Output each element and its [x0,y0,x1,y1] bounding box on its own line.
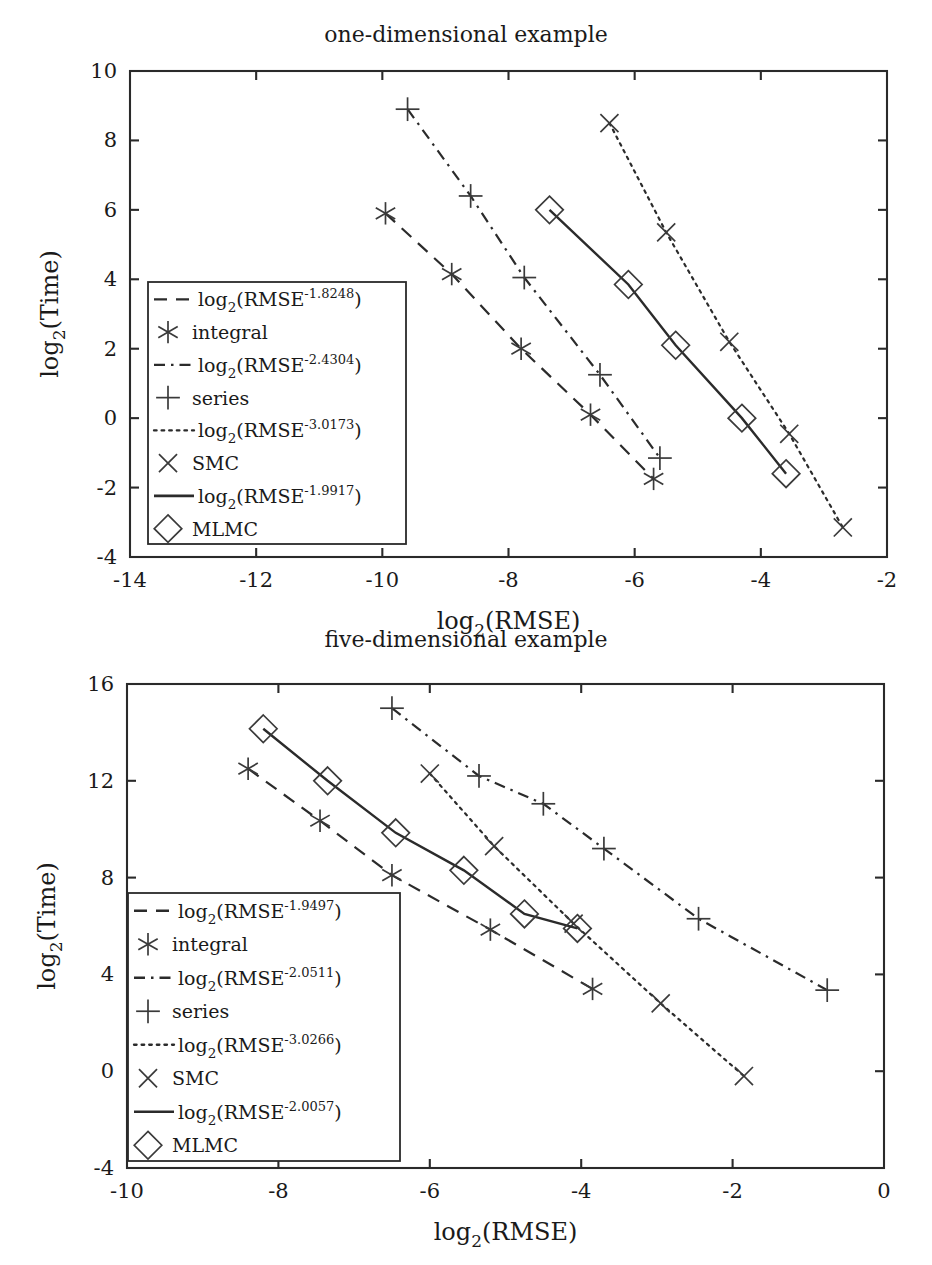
y-tick-label: 2 [104,337,117,361]
legend-label-SMC: SMC [192,452,239,474]
y-tick-label: 0 [101,1059,114,1083]
legend-label-SMC: SMC [172,1067,219,1089]
y-tick-label: 10 [90,59,117,83]
x-tick-label: -8 [498,568,518,592]
chart-title-five-dimensional: five-dimensional example [0,627,932,652]
y-axis-label: log2(Time) [36,250,69,378]
legend-label-integral: integral [172,933,248,955]
series-series [396,97,672,470]
x-tick-label: 0 [877,1179,890,1203]
x-tick-label: -2 [877,568,897,592]
legend-label-MLMC: MLMC [172,1134,238,1156]
x-tick-label: -2 [722,1179,742,1203]
x-tick-label: -12 [239,568,273,592]
x-tick-label: -14 [113,568,147,592]
svg-text:log2(Time): log2(Time) [33,862,66,990]
chart-title-one-dimensional: one-dimensional example [0,22,932,47]
y-tick-label: 4 [104,267,117,291]
chart-panel-one-dimensional: one-dimensional example -14-12-10-8-6-4-… [0,0,932,640]
series-line-integral [385,213,653,479]
legend-label-series: series [172,1000,229,1022]
legend-label-series: series [192,387,249,409]
chart-svg-five-dimensional: -10-8-6-4-20-40481216log2(RMSE)log2(Time… [0,615,932,1265]
y-axis-label: log2(Time) [33,862,66,990]
x-tick-label: -6 [420,1179,440,1203]
series-SMC [600,114,851,536]
series-line-MLMC [550,210,787,474]
legend-label-MLMC: MLMC [192,518,258,540]
marker-diamond [772,460,800,488]
svg-text:log2(RMSE): log2(RMSE) [434,1218,578,1251]
y-tick-label: -4 [97,545,117,569]
figure-page: one-dimensional example -14-12-10-8-6-4-… [0,0,932,1265]
series-series [380,696,839,1002]
y-tick-label: 16 [87,672,114,696]
x-tick-label: -6 [624,568,644,592]
series-line-series [408,109,660,458]
x-tick-label: -4 [751,568,771,592]
x-axis-label: log2(RMSE) [434,1218,578,1251]
legend-label-integral: integral [192,321,268,343]
chart-svg-one-dimensional: -14-12-10-8-6-4-2-4-20246810log2(RMSE)lo… [0,0,932,640]
y-tick-label: 6 [104,198,117,222]
y-tick-label: 8 [104,128,117,152]
x-tick-label: -4 [571,1179,591,1203]
chart-panel-five-dimensional: five-dimensional example -10-8-6-4-20-40… [0,615,932,1265]
y-tick-label: 4 [101,962,114,986]
y-tick-label: -4 [94,1156,114,1180]
x-tick-label: -10 [365,568,399,592]
y-tick-label: -2 [97,476,117,500]
x-tick-label: -10 [110,1179,144,1203]
y-tick-label: 8 [101,866,114,890]
x-tick-label: -8 [268,1179,288,1203]
y-tick-label: 12 [87,769,114,793]
svg-text:log2(Time): log2(Time) [36,250,69,378]
series-line-SMC [609,123,842,527]
y-tick-label: 0 [104,406,117,430]
series-integral [376,202,664,490]
